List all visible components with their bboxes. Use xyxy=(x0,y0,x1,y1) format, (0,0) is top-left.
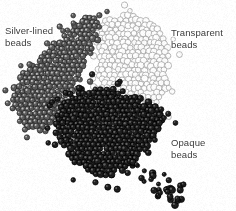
bead-types-figure: Silver-lined beads Transparent beads Opa… xyxy=(0,0,236,211)
caption-opaque-beads: Opaque beads xyxy=(171,137,205,160)
caption-transparent-beads: Transparent beads xyxy=(171,27,223,50)
caption-silver-lined-beads: Silver-lined beads xyxy=(5,25,53,48)
